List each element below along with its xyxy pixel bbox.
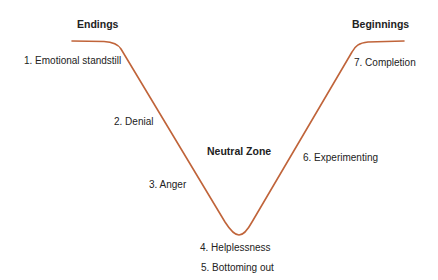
- stage-1-label: 1. Emotional standstill: [24, 55, 121, 67]
- neutral-zone-heading: Neutral Zone: [207, 145, 271, 157]
- stage-6-label: 6. Experimenting: [303, 152, 378, 164]
- endings-heading: Endings: [77, 18, 118, 30]
- stage-5-label: 5. Bottoming out: [201, 262, 274, 274]
- stage-7-label: 7. Completion: [354, 57, 416, 69]
- stage-3-label: 3. Anger: [149, 179, 186, 191]
- transition-curve-diagram: Endings Beginnings Neutral Zone 1. Emoti…: [0, 0, 438, 280]
- transition-curve-line: [0, 0, 438, 280]
- stage-2-label: 2. Denial: [114, 116, 153, 128]
- beginnings-heading: Beginnings: [352, 18, 409, 30]
- stage-4-label: 4. Helplessness: [200, 242, 271, 254]
